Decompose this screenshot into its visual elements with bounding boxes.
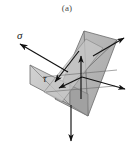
figure-container: (a) xyxy=(0,0,134,151)
tau-label: τ xyxy=(43,73,47,84)
sigma-vector xyxy=(20,44,68,72)
stress-element-diagram: σ τ xyxy=(0,0,134,151)
sigma-label: σ xyxy=(17,29,23,41)
